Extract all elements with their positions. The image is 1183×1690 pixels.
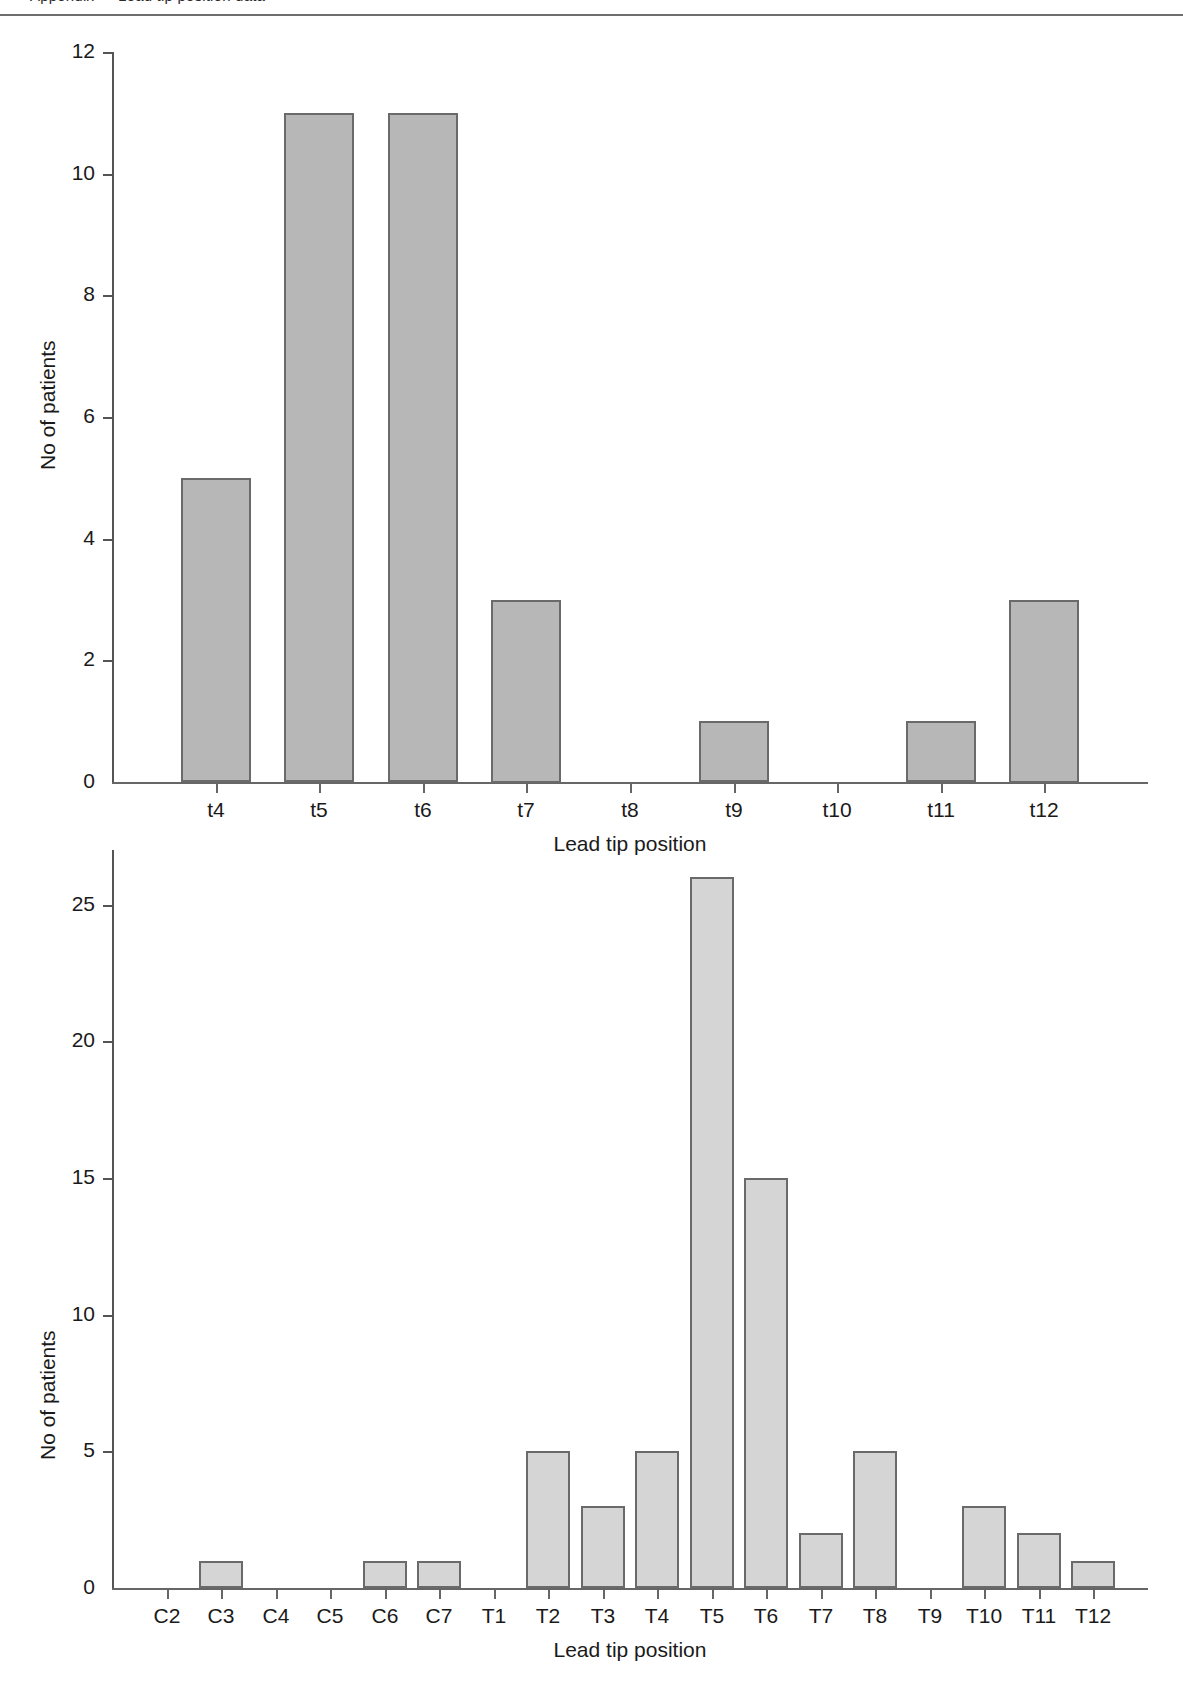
x-tick-label: t6 (378, 798, 468, 822)
y-axis-title: No of patients (36, 340, 60, 470)
x-tick-mark (875, 1590, 877, 1599)
x-tick-mark (423, 784, 425, 793)
x-tick-mark (216, 784, 218, 793)
bar (699, 721, 769, 782)
x-axis-title: Lead tip position (112, 1638, 1148, 1662)
y-tick-mark (103, 660, 112, 662)
x-tick-mark (712, 1590, 714, 1599)
y-tick-mark (103, 1315, 112, 1317)
y-tick-mark (103, 1041, 112, 1043)
bar (1017, 1533, 1061, 1588)
bar (181, 478, 251, 782)
y-tick-mark (103, 52, 112, 54)
y-axis-line (112, 850, 114, 1590)
y-tick-label: 12 (37, 39, 95, 63)
x-tick-label: t12 (999, 798, 1089, 822)
x-tick-mark (330, 1590, 332, 1599)
bar (1071, 1561, 1115, 1588)
x-tick-mark (1039, 1590, 1041, 1599)
y-tick-label: 20 (37, 1028, 95, 1052)
chart-lower: 0510152025C2C3C4C5C6C7T1T2T3T4T5T6T7T8T9… (0, 820, 1183, 1690)
bar (581, 1506, 625, 1588)
x-tick-mark (984, 1590, 986, 1599)
x-tick-mark (221, 1590, 223, 1599)
x-tick-label: t10 (792, 798, 882, 822)
x-tick-mark (930, 1590, 932, 1599)
bar (526, 1451, 570, 1588)
y-tick-mark (103, 539, 112, 541)
x-tick-mark (766, 1590, 768, 1599)
chart-upper: 024681012t4t5t6t7t8t9t10t11t12Lead tip p… (0, 0, 1183, 860)
x-tick-label: t9 (689, 798, 779, 822)
x-tick-label: t5 (274, 798, 364, 822)
x-tick-label: T12 (1048, 1604, 1138, 1628)
x-tick-mark (603, 1590, 605, 1599)
x-tick-mark (385, 1590, 387, 1599)
y-tick-mark (103, 1451, 112, 1453)
bar (1009, 600, 1079, 783)
x-tick-mark (821, 1590, 823, 1599)
x-tick-mark (548, 1590, 550, 1599)
x-tick-mark (657, 1590, 659, 1599)
x-tick-mark (1044, 784, 1046, 793)
y-tick-label: 4 (37, 526, 95, 550)
x-tick-mark (276, 1590, 278, 1599)
x-tick-mark (319, 784, 321, 793)
y-tick-label: 0 (37, 1575, 95, 1599)
y-axis-line (112, 52, 114, 784)
bar (744, 1178, 788, 1588)
y-tick-mark (103, 905, 112, 907)
y-tick-mark (103, 295, 112, 297)
y-tick-label: 0 (37, 769, 95, 793)
bar (417, 1561, 461, 1588)
x-tick-mark (439, 1590, 441, 1599)
bar (491, 600, 561, 783)
x-tick-mark (837, 784, 839, 793)
x-tick-label: t4 (171, 798, 261, 822)
bar (284, 113, 354, 782)
bar (199, 1561, 243, 1588)
x-tick-mark (630, 784, 632, 793)
bar (853, 1451, 897, 1588)
y-tick-label: 10 (37, 161, 95, 185)
bar (906, 721, 976, 782)
bar (388, 113, 458, 782)
y-tick-mark (103, 1178, 112, 1180)
x-axis-line (112, 1588, 1148, 1590)
x-tick-label: t8 (585, 798, 675, 822)
x-tick-label: t7 (481, 798, 571, 822)
x-tick-label: t11 (896, 798, 986, 822)
x-tick-mark (526, 784, 528, 793)
bar (363, 1561, 407, 1588)
bar (962, 1506, 1006, 1588)
y-tick-label: 25 (37, 892, 95, 916)
x-tick-mark (734, 784, 736, 793)
bar (635, 1451, 679, 1588)
x-tick-mark (1093, 1590, 1095, 1599)
y-tick-label: 2 (37, 647, 95, 671)
bar (690, 877, 734, 1588)
bar (799, 1533, 843, 1588)
y-tick-mark (103, 417, 112, 419)
x-tick-mark (494, 1590, 496, 1599)
y-tick-label: 10 (37, 1302, 95, 1326)
y-tick-mark (103, 174, 112, 176)
y-tick-label: 15 (37, 1165, 95, 1189)
x-tick-mark (167, 1590, 169, 1599)
y-axis-title: No of patients (36, 1330, 60, 1460)
x-tick-mark (941, 784, 943, 793)
y-tick-label: 8 (37, 282, 95, 306)
